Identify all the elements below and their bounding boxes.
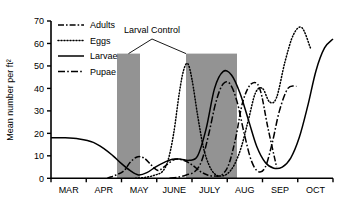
- y-tick-label: 50: [34, 61, 44, 71]
- y-tick-label: 40: [34, 84, 44, 94]
- larval-control-label: Larval Control: [124, 25, 180, 35]
- y-tick-label: 0: [39, 174, 44, 184]
- legend-label-pupae: Pupae: [90, 67, 116, 77]
- x-tick-label: JUNE: [163, 185, 187, 195]
- x-tick-label: SEP: [271, 185, 289, 195]
- figure-container: Larval Control 010203040506070 MARAPRMAY…: [0, 0, 341, 210]
- y-tick-label: 20: [34, 129, 44, 139]
- x-tick-label: OCT: [306, 185, 326, 195]
- legend-label-adults: Adults: [90, 20, 116, 30]
- x-tick-label: MAY: [130, 185, 149, 195]
- y-tick-label: 70: [34, 16, 44, 26]
- legend-label-eggs: Eggs: [90, 36, 111, 46]
- x-tick-label: MAR: [59, 185, 80, 195]
- x-tick-label: APR: [95, 185, 114, 195]
- y-tick-label: 60: [34, 39, 44, 49]
- legend-label-larvae: Larvae: [90, 51, 118, 61]
- x-tick-label: JULY: [199, 185, 220, 195]
- larval-control-band-1: [117, 54, 140, 178]
- y-tick-label: 10: [34, 151, 44, 161]
- insect-population-line-chart: Larval Control 010203040506070 MARAPRMAY…: [0, 0, 341, 210]
- y-axis-title: Mean number per ft²: [5, 59, 15, 141]
- x-tick-label: AUG: [235, 185, 255, 195]
- y-tick-label: 30: [34, 106, 44, 116]
